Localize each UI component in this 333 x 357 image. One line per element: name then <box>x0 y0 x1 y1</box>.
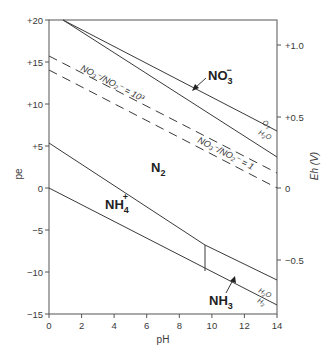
y2-tick-label: +0.5 <box>285 112 304 123</box>
nh3-arrow <box>226 280 233 293</box>
x-tick-label: 12 <box>239 320 250 331</box>
x-axis-tick-labels: 0 2 4 6 8 10 12 14 <box>46 320 282 331</box>
x-tick-label: 8 <box>177 320 182 331</box>
label-ratio-1000: NO₃⁻/NO₂⁻ = 10³ <box>79 63 147 104</box>
label-n2: N2 <box>151 160 165 178</box>
label-nh3: NH3 <box>209 293 233 311</box>
no3-arrow <box>196 78 206 87</box>
y2-tick-label: 0 <box>285 183 290 194</box>
y-tick-label: −5 <box>32 225 43 236</box>
n2-nh3-boundary <box>205 245 277 280</box>
x-tick-label: 10 <box>207 320 218 331</box>
svg-text:NO₃⁻/NO₂⁻ = 1: NO₃⁻/NO₂⁻ = 1 <box>196 135 256 172</box>
y2-tick-label: +1.0 <box>285 40 304 51</box>
x-tick-label: 4 <box>111 320 116 331</box>
svg-text:H2O: H2O <box>257 129 273 143</box>
y-tick-label: +20 <box>27 15 43 26</box>
x-axis-title: pH <box>157 334 170 345</box>
label-nh4: NH4+ <box>105 192 129 215</box>
label-ratio-1: NO₃⁻/NO₂⁻ = 1 <box>196 135 256 172</box>
y2-tick-label: −0.5 <box>285 255 304 266</box>
label-h2o-upper: H2O <box>257 129 273 143</box>
y2-axis-ticks <box>277 45 281 260</box>
x-tick-label: 6 <box>144 320 149 331</box>
x-tick-label: 0 <box>46 320 51 331</box>
y2-axis-tick-labels: +1.0 +0.5 0 −0.5 <box>285 40 304 266</box>
no3-n2-boundary <box>63 20 277 157</box>
label-no3: NO3− <box>208 65 233 86</box>
y-axis-ticks <box>45 20 49 314</box>
x-tick-label: 2 <box>79 320 84 331</box>
svg-text:NO₃⁻/NO₂⁻ = 10³: NO₃⁻/NO₂⁻ = 10³ <box>79 63 147 104</box>
x-axis-ticks <box>49 314 277 318</box>
y-tick-label: +10 <box>27 99 43 110</box>
pe-ph-diagram: +20 +15 +10 +5 0 −5 −10 −15 pe 0 2 4 6 8… <box>0 0 333 357</box>
y-tick-label: +15 <box>27 57 43 68</box>
y-tick-label: −15 <box>27 309 43 320</box>
y-axis-title: pe <box>13 168 24 180</box>
y2-axis-title: Eh (V) <box>309 152 320 180</box>
y-tick-label: 0 <box>38 183 43 194</box>
x-tick-label: 14 <box>272 320 283 331</box>
y-tick-label: +5 <box>32 141 43 152</box>
y-axis-tick-labels: +20 +15 +10 +5 0 −5 −10 −15 <box>27 15 43 320</box>
h2o-h2-boundary <box>49 188 277 305</box>
arrow-head-icon <box>230 276 236 283</box>
y-tick-label: −10 <box>27 267 43 278</box>
